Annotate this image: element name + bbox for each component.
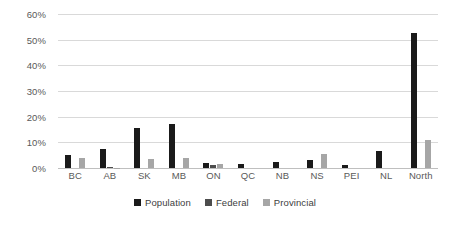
bar-ns-population <box>307 160 313 168</box>
bar-group-nb <box>265 14 300 168</box>
y-axis-tick-label: 50% <box>27 34 46 45</box>
bar-qc-population <box>238 164 244 168</box>
x-axis-tick-label: MB <box>162 170 197 181</box>
x-axis-tick-label: North <box>403 170 438 181</box>
bar-group-ab <box>93 14 128 168</box>
bar-chart: 0%10%20%30%40%50%60% BCABSKMBONQCNBNSPEI… <box>0 0 450 225</box>
bar-ns-provincial <box>321 154 327 168</box>
bar-on-population <box>203 163 209 168</box>
bar-north-provincial <box>425 140 431 168</box>
y-axis-tick-label: 60% <box>27 9 46 20</box>
bar-north-population <box>411 33 417 168</box>
bar-ab-population <box>100 149 106 168</box>
x-axis-tick-label: NB <box>265 170 300 181</box>
y-axis-tick-label: 20% <box>27 111 46 122</box>
x-axis-tick-label: NS <box>300 170 335 181</box>
bar-group-north <box>403 14 438 168</box>
y-axis-labels: 0%10%20%30%40%50%60% <box>0 14 52 168</box>
bar-ab-federal <box>107 167 113 168</box>
x-axis-tick-label: AB <box>93 170 128 181</box>
legend-item-provincial[interactable]: Provincial <box>263 197 316 208</box>
x-axis-tick-label: ON <box>196 170 231 181</box>
bar-ab-provincial <box>114 168 120 169</box>
legend-item-federal[interactable]: Federal <box>205 197 249 208</box>
legend-label: Provincial <box>274 197 316 208</box>
bar-nb-population <box>273 162 279 168</box>
bar-group-pei <box>334 14 369 168</box>
gridline <box>58 168 438 169</box>
bar-group-on <box>196 14 231 168</box>
y-axis-tick-label: 30% <box>27 86 46 97</box>
bar-group-nl <box>369 14 404 168</box>
legend-swatch-icon <box>205 199 212 206</box>
bar-on-federal <box>210 165 216 168</box>
bar-bc-population <box>65 155 71 168</box>
chart-legend: PopulationFederalProvincial <box>0 197 450 208</box>
bar-group-qc <box>231 14 266 168</box>
bar-bc-provincial <box>79 158 85 168</box>
x-axis-tick-label: SK <box>127 170 162 181</box>
legend-swatch-icon <box>263 199 270 206</box>
bar-mb-provincial <box>183 158 189 168</box>
bar-group-mb <box>162 14 197 168</box>
legend-swatch-icon <box>134 199 141 206</box>
y-axis-tick-label: 40% <box>27 60 46 71</box>
bar-pei-population <box>342 165 348 168</box>
x-axis-tick-label: PEI <box>334 170 369 181</box>
legend-item-population[interactable]: Population <box>134 197 191 208</box>
y-axis-tick-label: 0% <box>32 163 46 174</box>
x-axis-tick-label: QC <box>231 170 266 181</box>
plot-area <box>58 14 438 168</box>
bar-group-sk <box>127 14 162 168</box>
bar-nl-population <box>376 151 382 168</box>
bar-group-ns <box>300 14 335 168</box>
bar-groups <box>58 14 438 168</box>
y-axis-tick-label: 10% <box>27 137 46 148</box>
bar-group-bc <box>58 14 93 168</box>
legend-label: Federal <box>216 197 249 208</box>
bar-on-provincial <box>217 164 223 168</box>
legend-label: Population <box>145 197 191 208</box>
x-axis-tick-label: NL <box>369 170 404 181</box>
x-axis-labels: BCABSKMBONQCNBNSPEINLNorth <box>58 170 438 181</box>
bar-mb-population <box>169 124 175 168</box>
bar-sk-population <box>134 128 140 168</box>
x-axis-tick-label: BC <box>58 170 93 181</box>
bar-sk-provincial <box>148 159 154 168</box>
